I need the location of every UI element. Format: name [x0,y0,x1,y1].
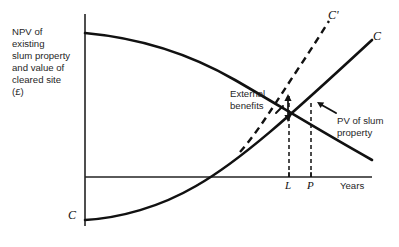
curve-label-c-right: C [373,29,381,44]
x-tick-label-L: L [285,179,291,191]
pv-label-leader [320,104,336,113]
annotation-pv-line-1: PV of slum [337,115,399,127]
y-axis-label-line-4: and value of [12,62,84,74]
npv-slum-property-chart: NPV of existing slum property and value … [0,0,399,247]
curve-c-prime [240,21,329,152]
y-axis-label-line-1: NPV of [12,26,84,38]
annotation-external-benefits-line-2: benefits [230,100,292,112]
y-axis-label-line-2: existing [12,38,84,50]
curve-pv-slum-property [85,33,372,160]
annotation-pv-of-slum-property: PV of slum property [337,115,399,138]
curve-label-c-left: C [68,208,76,223]
x-tick-label-P: P [307,179,314,191]
curve-label-c-prime: C' [328,8,339,23]
annotation-pv-line-2: property [337,127,399,139]
annotation-external-benefits-line-1: External [230,88,292,100]
y-axis-label-line-3: slum property [12,50,84,62]
y-axis-label: NPV of existing slum property and value … [12,26,84,99]
y-axis-label-line-6: (£) [12,86,84,98]
x-axis-label: Years [340,180,364,191]
annotation-external-benefits: External benefits [230,88,292,111]
y-axis-label-line-5: cleared site [12,74,84,86]
curve-c [85,40,372,220]
